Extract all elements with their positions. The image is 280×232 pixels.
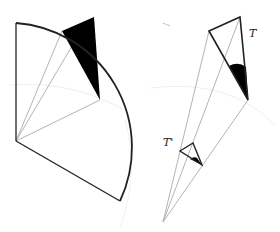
faint-tick-mark [163,23,170,26]
ray-a [163,31,209,222]
right-triangle-figure: T T' [163,17,258,222]
ray-c [163,100,248,222]
sector-bottom-edge [16,141,120,201]
ray-2 [16,46,72,141]
left-sector-figure [16,17,132,201]
faint-arc-left [10,84,125,110]
ray-b [163,17,240,222]
faint-arc-right [150,86,275,125]
diagram-canvas: T T' [0,0,280,232]
label-T-prime: T' [163,136,173,149]
label-T: T [249,27,258,40]
